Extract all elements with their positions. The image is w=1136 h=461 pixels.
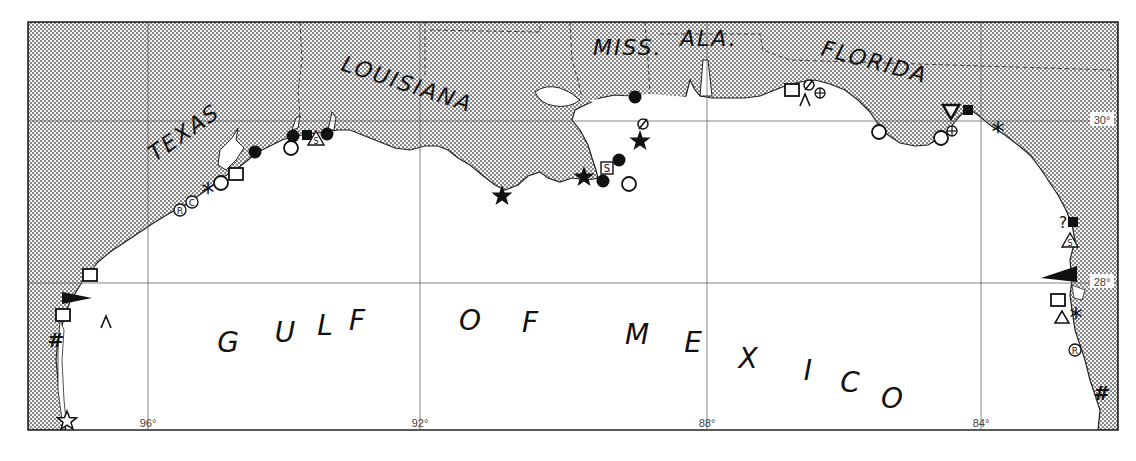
- longitude-tick-label: 92°: [412, 417, 429, 429]
- circle-r-icon: R: [1069, 344, 1081, 356]
- circle-slash-icon: [804, 80, 814, 90]
- open-circle-icon: [284, 141, 298, 155]
- hash-icon: #: [1094, 381, 1111, 405]
- open-circle-icon: [214, 176, 228, 190]
- open-square-icon: [83, 269, 97, 281]
- filled-circle-icon: [249, 146, 262, 159]
- filled-circle-icon: [629, 91, 642, 104]
- gulf-label-letter: F: [522, 306, 539, 339]
- filled-circle-icon: [597, 175, 610, 188]
- asterisk-icon: *: [202, 178, 215, 208]
- gulf-label-letter: E: [684, 326, 702, 359]
- open-square-icon: [1051, 294, 1065, 306]
- open-square-icon: [56, 309, 70, 321]
- latitude-tick-label: 30°: [1094, 114, 1111, 126]
- svg-text:*: *: [1070, 303, 1083, 333]
- open-circle-icon: [872, 125, 886, 139]
- filled-square-icon: [1068, 217, 1078, 227]
- open-square-icon: [785, 84, 799, 96]
- filled-square-icon: [302, 130, 312, 140]
- open-circle-icon: [622, 177, 636, 191]
- svg-text:#: #: [1094, 381, 1111, 405]
- circle-slash-icon: [638, 119, 648, 129]
- svg-text:?: ?: [1059, 213, 1068, 232]
- latitude-tick-label: 28°: [1094, 276, 1111, 288]
- open-circle-icon: [934, 131, 948, 145]
- svg-text:R: R: [177, 206, 183, 216]
- svg-text:#: #: [48, 328, 65, 352]
- asterisk-icon: *: [1070, 303, 1083, 333]
- state-label-miss: MISS.: [593, 35, 663, 60]
- filled-circle-icon: [613, 154, 626, 167]
- state-label-ala: ALA.: [678, 26, 738, 51]
- gulf-label-letter: C: [840, 366, 860, 399]
- gulf-label-letter: F: [349, 304, 366, 337]
- open-square-icon: [229, 168, 243, 180]
- square-s-icon: S: [601, 162, 613, 174]
- longitude-tick-label: 96°: [140, 417, 157, 429]
- gulf-label-letter: L: [317, 309, 333, 342]
- gulf-label-letter: I: [804, 354, 812, 387]
- gulf-label-letter: O: [881, 382, 903, 415]
- hash-icon: #: [48, 328, 65, 352]
- circle-c-icon: C: [186, 196, 198, 208]
- filled-circle-icon: [321, 128, 334, 141]
- svg-text:R: R: [1072, 346, 1078, 356]
- question-mark-icon: ?: [1059, 213, 1068, 232]
- filled-square-icon: [963, 105, 973, 115]
- asterisk-icon: *: [992, 117, 1005, 147]
- svg-text:C: C: [189, 198, 195, 208]
- circle-plus-icon: [815, 88, 825, 98]
- gulf-label-letter: M: [625, 318, 649, 351]
- svg-text:S: S: [313, 137, 318, 146]
- gulf-coast-map: 96°92°88°84°30°28° TEXASLOUISIANAMISS.AL…: [0, 0, 1136, 461]
- gulf-label-letter: U: [275, 316, 296, 349]
- svg-text:*: *: [992, 117, 1005, 147]
- svg-text:*: *: [202, 178, 215, 208]
- gulf-label-letter: O: [459, 304, 481, 337]
- longitude-tick-label: 84°: [973, 417, 990, 429]
- circle-plus-icon: [947, 126, 957, 136]
- svg-text:S: S: [604, 163, 610, 174]
- longitude-tick-label: 88°: [699, 417, 716, 429]
- gulf-label-letter: X: [736, 342, 758, 375]
- gulf-label-letter: G: [217, 326, 239, 359]
- svg-text:S: S: [1067, 239, 1072, 248]
- circle-r-icon: R: [174, 204, 186, 216]
